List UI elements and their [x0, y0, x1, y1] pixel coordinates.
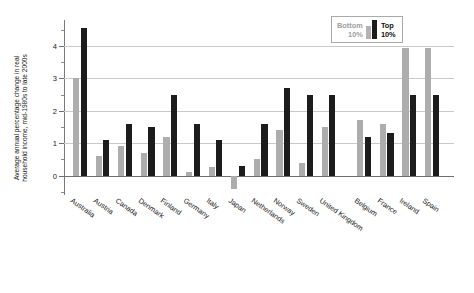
bar-spain-bottom-10 — [425, 48, 431, 176]
x-axis-category-labels: AustraliaAustriaCanadaDenmarkFinlandGerm… — [64, 196, 464, 286]
bar-japan-bottom-10 — [231, 176, 237, 189]
y-axis-title-line-2: household income, mid-1980s to late 2000… — [21, 21, 29, 216]
x-axis-label-australia: Australia — [69, 196, 97, 219]
bar-denmark-top-10 — [148, 127, 154, 176]
legend-label-bottom-decile: Bottom 10% — [337, 21, 363, 39]
bar-norway-bottom-10 — [276, 130, 282, 175]
bar-japan-top-10 — [239, 166, 245, 176]
x-axis-label-sweden: Sweden — [295, 196, 321, 218]
legend-label-top-decile: Top 10% — [381, 21, 396, 39]
bar-canada-bottom-10 — [118, 146, 124, 175]
bar-france-top-10 — [387, 133, 393, 175]
y-axis-title: Average annual percentage change in real… — [6, 18, 36, 218]
x-axis-label-france: France — [376, 196, 399, 216]
legend-swatches — [366, 20, 378, 39]
bar-canada-top-10 — [126, 124, 132, 176]
y-axis-tick-label: 4 — [53, 41, 57, 50]
chart-container: Average annual percentage change in real… — [0, 0, 474, 293]
x-axis-label-spain: Spain — [421, 196, 441, 214]
bar-italy-bottom-10 — [209, 167, 215, 175]
x-axis-label-canada: Canada — [114, 196, 140, 218]
bar-finland-top-10 — [171, 95, 177, 176]
bar-ireland-top-10 — [410, 95, 416, 176]
legend-swatch-top-decile — [372, 20, 377, 39]
legend-top-line-2: 10% — [381, 30, 396, 39]
plot-area: 01234 — [64, 20, 454, 195]
bar-italy-top-10 — [216, 140, 222, 176]
bar-finland-bottom-10 — [163, 137, 169, 176]
x-axis-label-japan: Japan — [227, 196, 248, 215]
bar-spain-top-10 — [433, 95, 439, 176]
bar-france-bottom-10 — [380, 124, 386, 176]
bar-sweden-bottom-10 — [299, 163, 305, 176]
bar-ireland-bottom-10 — [402, 48, 408, 176]
y-axis-tick-label: 0 — [53, 171, 57, 180]
bar-sweden-top-10 — [307, 95, 313, 176]
legend-bottom-line-1: Bottom — [337, 21, 363, 30]
y-axis-tick-label: 3 — [53, 74, 57, 83]
bar-united-kingdom-bottom-10 — [322, 127, 328, 176]
chart-legend: Bottom 10% Top 10% — [331, 16, 403, 43]
bar-united-kingdom-top-10 — [329, 95, 335, 176]
legend-swatch-bottom-decile — [366, 26, 371, 39]
bar-norway-top-10 — [284, 88, 290, 176]
bar-austria-top-10 — [103, 140, 109, 176]
x-axis-label-italy: Italy — [204, 196, 220, 211]
bar-australia-bottom-10 — [73, 78, 79, 175]
bar-belgium-top-10 — [365, 137, 371, 176]
bar-denmark-bottom-10 — [141, 153, 147, 176]
x-axis-label-belgium: Belgium — [353, 196, 379, 218]
y-axis-title-line-1: Average annual percentage change in real — [13, 21, 21, 216]
bar-germany-bottom-10 — [186, 172, 192, 175]
x-axis-label-ireland: Ireland — [398, 196, 421, 216]
y-axis-tick-label: 1 — [53, 139, 57, 148]
bar-australia-top-10 — [81, 28, 87, 175]
bar-germany-top-10 — [194, 124, 200, 176]
y-axis-tick-label: 2 — [53, 106, 57, 115]
bar-austria-bottom-10 — [96, 156, 102, 175]
legend-top-line-1: Top — [381, 21, 396, 30]
legend-bottom-line-2: 10% — [337, 30, 363, 39]
bar-belgium-bottom-10 — [357, 120, 363, 175]
bar-series-layer — [64, 20, 454, 195]
bar-netherlands-bottom-10 — [254, 159, 260, 175]
bar-netherlands-top-10 — [261, 124, 267, 176]
